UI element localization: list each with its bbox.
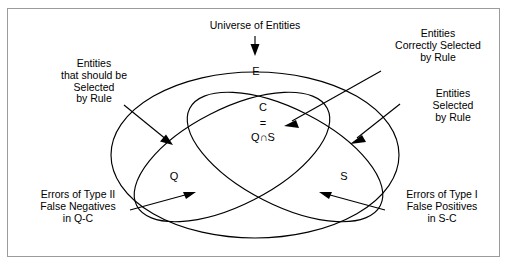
arrow-should-be-selected — [124, 105, 173, 145]
callout-errors-type-2: Errors of Type II False Negatives in Q-C — [16, 189, 140, 224]
callout-errors-type-2-line-3: in Q-C — [16, 213, 140, 225]
set-label-C: C — [259, 101, 267, 113]
callout-should-be-selected: Entities that should be Selected by Rule — [36, 58, 152, 105]
set-label-S: S — [340, 170, 347, 182]
arrow-selected-by-rule — [350, 104, 400, 144]
callout-universe-of-entities: Universe of Entities — [197, 20, 313, 32]
callout-errors-type-1-line-3: in S-C — [382, 213, 502, 225]
callout-should-be-selected-line-2: that should be — [36, 70, 152, 82]
callout-errors-type-1-line-2: False Positives — [382, 201, 502, 213]
callout-selected-by-rule: Entities Selected by Rule — [404, 88, 502, 123]
callout-correctly-selected-line-2: Correctly Selected — [372, 40, 504, 52]
arrow-correctly-selected — [284, 71, 381, 128]
callout-selected-by-rule-line-3: by Rule — [404, 112, 502, 124]
set-label-equals: = — [260, 117, 266, 129]
callout-universe-line-1: Universe of Entities — [197, 20, 313, 32]
ellipse-S — [168, 66, 402, 249]
callout-correctly-selected: Entities Correctly Selected by Rule — [372, 28, 504, 63]
callout-should-be-selected-line-4: by Rule — [36, 93, 152, 105]
set-label-intersection: Q∩S — [251, 131, 275, 143]
callout-correctly-selected-line-3: by Rule — [372, 52, 504, 64]
set-label-E: E — [252, 65, 259, 77]
callout-errors-type-2-line-2: False Negatives — [16, 201, 140, 213]
callout-errors-type-1: Errors of Type I False Positives in S-C — [382, 189, 502, 224]
figure-root: E C = Q∩S Q S — [0, 0, 509, 272]
arrow-universe — [251, 36, 260, 56]
callout-selected-by-rule-line-2: Selected — [404, 100, 502, 112]
set-label-Q: Q — [170, 170, 179, 182]
